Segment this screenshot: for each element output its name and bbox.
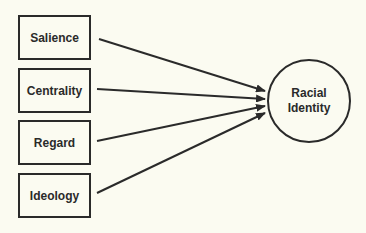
racial-identity-line2: Identity xyxy=(268,101,350,116)
ideology-node: Ideology xyxy=(18,173,91,218)
arrow-salience xyxy=(99,39,265,91)
arrow-regard xyxy=(97,106,265,141)
arrow-centrality xyxy=(97,89,265,99)
arrow-ideology xyxy=(97,113,265,193)
ideology-label: Ideology xyxy=(30,189,79,203)
regard-node: Regard xyxy=(18,120,91,165)
salience-node: Salience xyxy=(18,15,91,60)
centrality-label: Centrality xyxy=(27,84,82,98)
centrality-node: Centrality xyxy=(18,68,91,113)
regard-label: Regard xyxy=(34,136,75,150)
racial-identity-label: Racial Identity xyxy=(268,86,350,116)
racial-identity-line1: Racial xyxy=(268,86,350,101)
salience-label: Salience xyxy=(30,31,79,45)
